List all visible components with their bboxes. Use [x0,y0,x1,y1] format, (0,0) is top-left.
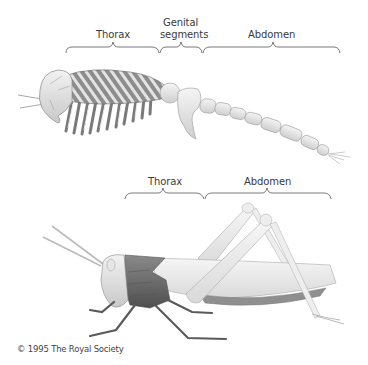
tail-filaments [328,152,350,164]
front-legs [90,300,226,339]
illustration-canvas [0,0,368,365]
compound-eye [107,259,115,271]
bottom-thorax-bracket [125,188,204,199]
abdomen-segments [199,98,330,157]
bottom-brackets [125,188,331,199]
striped-thorax [64,70,166,104]
top-brackets [66,42,340,53]
grasshopper-drawing [43,203,344,339]
copyright-notice: © 1995 The Royal Society [17,344,124,354]
head [39,70,72,123]
genital-segment-2 [178,88,201,139]
grasshopper-antennae [43,226,103,266]
ancestral-arthropod-drawing [18,70,350,164]
genital-segment-1 [160,83,180,103]
bottom-abdomen-bracket [205,188,331,199]
top-abdomen-bracket [203,42,340,53]
top-genital-bracket [160,42,202,53]
top-thorax-bracket [66,42,159,53]
